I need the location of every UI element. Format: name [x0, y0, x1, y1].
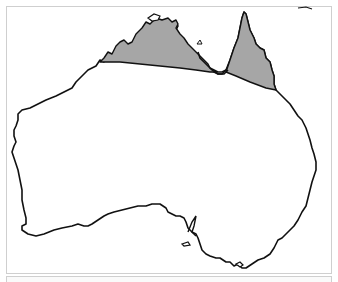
- island-sa: [182, 242, 190, 246]
- island-north: [148, 14, 160, 21]
- bottom-strip: [6, 276, 332, 282]
- island-ne: [298, 7, 312, 9]
- island-gulf: [197, 40, 202, 44]
